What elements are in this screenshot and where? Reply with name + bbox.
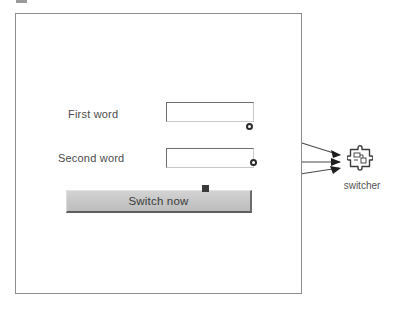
- designer-canvas: First word Second word Switch now switch…: [0, 0, 398, 312]
- second-word-label: Second word: [58, 152, 124, 164]
- puzzle-piece-icon[interactable]: [347, 145, 373, 171]
- switch-now-button[interactable]: Switch now: [66, 190, 252, 213]
- bean-label: switcher: [336, 180, 388, 191]
- arrowhead-second-word: [331, 158, 341, 166]
- arrowhead-first-word: [331, 150, 341, 158]
- first-word-input[interactable]: [166, 102, 254, 122]
- arrowhead-switch-button: [330, 166, 341, 174]
- connection-anchor-first-word[interactable]: [246, 123, 253, 130]
- first-word-label: First word: [68, 108, 118, 120]
- connection-anchor-switch-button[interactable]: [202, 185, 209, 192]
- connection-anchor-second-word[interactable]: [250, 159, 257, 166]
- second-word-input[interactable]: [166, 148, 254, 168]
- switch-now-button-label: Switch now: [128, 195, 188, 207]
